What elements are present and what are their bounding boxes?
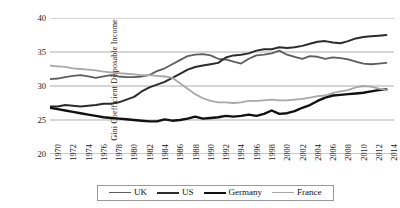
x-tick-label: 1972	[69, 144, 79, 184]
legend-label: UK	[134, 187, 147, 198]
series-line-germany	[50, 89, 386, 121]
x-tick-label: 1984	[161, 144, 171, 184]
legend: UKUSGermanyFrance	[97, 185, 334, 201]
x-tick-label: 1992	[222, 144, 232, 184]
x-tick-label: 1980	[130, 144, 140, 184]
series-line-france	[50, 66, 386, 103]
legend-label: US	[182, 187, 194, 198]
plot-area	[50, 18, 394, 154]
x-axis-tick-labels: 1970197219741976197819801982198419861988…	[50, 156, 394, 184]
y-tick-label: 20	[26, 150, 46, 158]
x-tick-label: 1974	[85, 144, 95, 184]
x-tick-label: 2002	[299, 144, 309, 184]
x-tick-label: 1994	[237, 144, 247, 184]
legend-item-france[interactable]: France	[272, 187, 322, 198]
legend-swatch-icon	[204, 192, 226, 194]
y-axis-tick-labels: 4035302520	[22, 0, 46, 160]
legend-item-uk[interactable]: UK	[109, 187, 147, 198]
x-tick-label: 2012	[375, 144, 385, 184]
x-tick-label: 1990	[207, 144, 217, 184]
y-tick-label: 25	[26, 116, 46, 124]
legend-swatch-icon	[272, 192, 294, 193]
x-tick-label: 2014	[390, 144, 400, 184]
legend-item-us[interactable]: US	[157, 187, 194, 198]
x-tick-label: 2000	[283, 144, 293, 184]
y-tick-label: 30	[26, 82, 46, 90]
gini-coefficient-line-chart: Gini Coefficient Disposable Income 40353…	[0, 0, 400, 208]
y-tick-label: 40	[26, 14, 46, 22]
x-tick-label: 1970	[54, 144, 64, 184]
x-tick-label: 1986	[176, 144, 186, 184]
x-tick-label: 2010	[360, 144, 370, 184]
x-tick-label: 2004	[314, 144, 324, 184]
series-line-uk	[50, 51, 386, 80]
plot-svg	[50, 18, 394, 154]
x-tick-label: 1988	[192, 144, 202, 184]
legend-label: France	[297, 187, 322, 198]
x-tick-label: 2008	[344, 144, 354, 184]
x-tick-label: 1996	[253, 144, 263, 184]
legend-item-germany[interactable]: Germany	[204, 187, 263, 198]
legend-swatch-icon	[109, 192, 131, 193]
x-tick-label: 1998	[268, 144, 278, 184]
y-tick-label: 35	[26, 48, 46, 56]
x-tick-label: 2006	[329, 144, 339, 184]
x-tick-label: 1982	[146, 144, 156, 184]
legend-swatch-icon	[157, 192, 179, 194]
x-tick-label: 1978	[115, 144, 125, 184]
x-tick-label: 1976	[100, 144, 110, 184]
legend-label: Germany	[229, 187, 263, 198]
